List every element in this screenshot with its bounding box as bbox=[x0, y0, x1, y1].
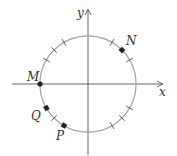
point-label-m: M bbox=[26, 70, 40, 84]
tick-mark bbox=[126, 106, 133, 110]
unit-circle-diagram: y x N M Q P bbox=[0, 0, 177, 156]
tick-mark bbox=[62, 39, 66, 46]
tick-mark bbox=[110, 39, 114, 46]
point-q bbox=[43, 105, 50, 112]
point-p bbox=[61, 122, 68, 129]
points bbox=[37, 47, 125, 129]
y-axis-label: y bbox=[76, 6, 84, 20]
point-label-n: N bbox=[125, 34, 137, 48]
point-label-p: P bbox=[55, 129, 65, 143]
tick-mark bbox=[126, 58, 133, 62]
tick-mark bbox=[110, 122, 114, 129]
tick-mark bbox=[43, 58, 50, 62]
point-label-q: Q bbox=[31, 109, 41, 123]
x-axis-label: x bbox=[159, 85, 166, 99]
